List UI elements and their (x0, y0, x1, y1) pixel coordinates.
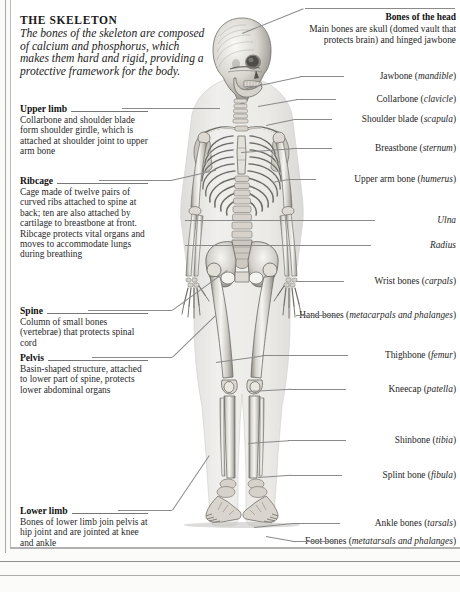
leader-hand-bones (296, 315, 340, 316)
left-label-upper-limb-rule (71, 111, 148, 112)
leader-rule-head-top (305, 8, 455, 9)
left-label-lower-limb-body: Bones of lower limb join pelvis at hip j… (20, 517, 148, 548)
left-label-lower-limb: Lower limb Bones of lower limb join pelv… (20, 505, 148, 548)
right-label-wrist-bones-name: Wrist bones (375, 276, 420, 286)
right-label-kneecap-name: Kneecap (389, 384, 422, 394)
left-label-ribcage: Ribcage Cage made of twelve pairs of cur… (20, 175, 148, 260)
right-label-collarbone-term: clavicle (424, 94, 453, 104)
leader-upper-limb (122, 108, 220, 109)
right-label-ankle-bones-name: Ankle bones (375, 518, 422, 528)
left-label-pelvis-heading: Pelvis (20, 352, 44, 363)
leader-radius (185, 245, 371, 246)
right-label-hand-bones-term: metacarpals and phalanges (349, 310, 453, 320)
right-label-breastbone-term: sternum (423, 143, 453, 153)
right-label-splint-bone-name: Splint bone (383, 470, 426, 480)
bottom-strip-top-rule (0, 561, 460, 562)
right-label-jawbone-name: Jawbone (380, 71, 413, 81)
right-label-foot-bones-term: metatarsals and phalanges (352, 536, 453, 546)
right-label-thighbone-name: Thighbone (385, 350, 426, 360)
right-label-collarbone-name: Collarbone (377, 94, 419, 104)
right-label-ankle-bones-term: tarsals (427, 518, 453, 528)
left-label-lower-limb-rule (72, 513, 148, 514)
left-label-upper-limb-heading: Upper limb (20, 103, 67, 114)
leader-ulna (185, 220, 375, 221)
leader-spine (88, 310, 172, 311)
skeleton-illustration (150, 2, 335, 547)
left-label-ribcage-heading: Ribcage (20, 175, 53, 186)
left-label-lower-limb-heading: Lower limb (20, 505, 68, 516)
right-label-shoulder-blade-term: scapula (424, 114, 453, 124)
left-label-pelvis-body: Basin-shaped structure, attached to lowe… (20, 364, 148, 395)
right-label-kneecap-term: patella (427, 384, 453, 394)
leader-upper-arm-bone (288, 179, 316, 180)
right-label-wrist-bones-term: carpals (425, 276, 453, 286)
leader-collarbone (296, 99, 336, 100)
right-label-upper-arm-bone-name: Upper arm bone (354, 174, 415, 184)
leader-lower-limb (118, 510, 172, 511)
right-label-shoulder-blade-name: Shoulder blade (362, 114, 419, 124)
leader-shinbone (288, 440, 346, 441)
left-label-spine-heading: Spine (20, 305, 43, 316)
left-label-spine: Spine Column of small bones (vertebrae) … (20, 305, 148, 348)
right-label-breastbone-name: Breastbone (375, 143, 417, 153)
right-label-splint-bone-term: fibula (431, 470, 453, 480)
right-label-shinbone-name: Shinbone (395, 435, 430, 445)
leader-ankle-bones (292, 523, 340, 524)
leader-foot-bones (294, 541, 336, 542)
leader-kneecap (290, 389, 346, 390)
right-label-upper-arm-bone: Upper arm bone (humerus) (296, 174, 456, 185)
left-label-ribcage-body: Cage made of twelve pairs of curved ribs… (20, 187, 148, 260)
right-label-thighbone-term: femur (431, 350, 453, 360)
leader-jawbone (300, 76, 344, 77)
cervical-spine-group (233, 99, 248, 123)
page-title: THE SKELETON (20, 14, 117, 26)
left-label-pelvis-rule (48, 360, 148, 361)
leader-breastbone (292, 148, 332, 149)
left-label-upper-limb: Upper limb Collarbone and shoulder blade… (20, 103, 148, 157)
left-label-ribcage-rule (57, 183, 148, 184)
frame-left-rule (5, 0, 6, 553)
right-label-jawbone-term: mandible (418, 71, 453, 81)
page-root: THE SKELETON The bones of the skeleton a… (0, 0, 460, 592)
bottom-strip-bottom-rule (0, 575, 460, 576)
leader-splint-bone (290, 475, 342, 476)
leader-wrist-bones (296, 281, 344, 282)
left-label-pelvis: Pelvis Basin-shaped structure, attached … (20, 352, 148, 395)
leader-pelvis (92, 357, 172, 358)
right-label-bones-of-head-name: Bones of the head (306, 12, 456, 23)
left-label-spine-rule (47, 313, 148, 314)
left-label-upper-limb-body: Collarbone and shoulder blade form shoul… (20, 115, 148, 157)
right-label-shinbone-term: tibia (436, 435, 453, 445)
leader-ribcage (99, 180, 171, 181)
leader-shoulder-blade (294, 119, 332, 120)
right-label-bones-of-head-detail: Main bones are skull (domed vault that p… (306, 24, 456, 45)
left-label-spine-body: Column of small bones (vertebrae) that p… (20, 317, 148, 348)
right-label-upper-arm-bone-term: humerus (421, 174, 453, 184)
leader-thighbone (262, 355, 348, 356)
